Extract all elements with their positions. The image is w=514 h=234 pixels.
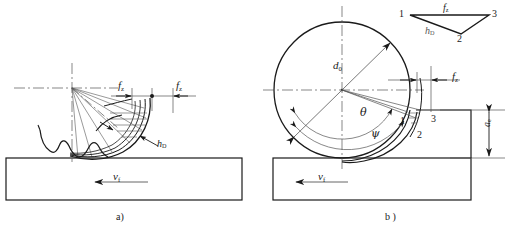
tooth-path-mid2-a bbox=[70, 100, 140, 155]
label-point-1-b: 1 bbox=[400, 116, 405, 126]
diagram-b-geometry bbox=[263, 6, 505, 200]
label-point-2-b: 2 bbox=[417, 130, 422, 140]
label-angle-psi-b: ψ bbox=[371, 128, 380, 139]
caption-b: b ) bbox=[385, 212, 396, 222]
feed-center-dot-a bbox=[150, 94, 154, 98]
surface-entry-tick-a bbox=[38, 125, 40, 130]
legend-vertex-3: 3 bbox=[492, 9, 497, 19]
uncut-layer-block-b bbox=[416, 110, 471, 158]
label-angle-theta-b: θ bbox=[360, 107, 367, 118]
triangle-legend-b bbox=[410, 15, 489, 34]
workpiece-block-b bbox=[273, 158, 471, 200]
cutter-radii-fan-a bbox=[72, 88, 146, 158]
label-point-3-b: 3 bbox=[431, 114, 436, 124]
figure-vector-layer bbox=[0, 0, 514, 234]
legend-edge-chip-thickness: hD bbox=[425, 26, 434, 37]
chip-pointer-a bbox=[100, 122, 113, 130]
label-feed-per-tooth-left-a: fz bbox=[118, 80, 124, 92]
legend-vertex-1: 1 bbox=[399, 9, 404, 19]
label-depth-of-cut-b: ae bbox=[482, 119, 493, 127]
axis-oblique-a bbox=[72, 88, 118, 128]
label-chip-thickness-a: hD bbox=[157, 139, 166, 150]
caption-a: a) bbox=[116, 212, 124, 222]
chip-thickness-leader-a bbox=[140, 136, 158, 146]
workpiece-block-a bbox=[6, 158, 242, 200]
label-feed-per-tooth-right-a: fz bbox=[176, 80, 182, 92]
legend-vertex-2: 2 bbox=[457, 34, 462, 44]
figure-root: fz fz hD vf a) d0 fz θ ψ 1 2 3 ae vf b )… bbox=[0, 0, 514, 234]
legend-edge-feed: fz bbox=[443, 3, 449, 14]
label-cutter-diameter-b: d0 bbox=[333, 60, 342, 72]
label-feed-per-tooth-b: fz bbox=[452, 71, 458, 83]
label-feed-velocity-b: vf bbox=[318, 171, 325, 183]
label-feed-velocity-a: vf bbox=[113, 171, 120, 183]
